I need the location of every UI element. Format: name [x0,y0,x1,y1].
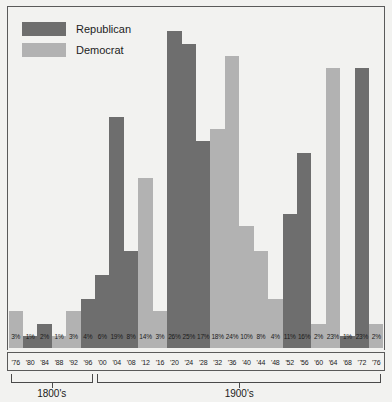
year-label: '52 [283,356,297,369]
year-label: '76 [9,356,23,369]
chart-legend: Republican Democrat [22,22,131,64]
bar-democrat-76 [369,324,383,348]
bar-republican-00 [95,275,109,348]
bar-democrat-60 [311,324,325,348]
bar-republican-52 [283,214,297,348]
legend-item-democrat: Democrat [22,43,131,57]
year-label: '08 [124,356,138,369]
bar-republican-04 [109,117,123,348]
bar-column [9,7,23,348]
bar-republican-80 [23,336,37,348]
year-label: '28 [196,356,210,369]
bar-democrat-16 [153,311,167,348]
year-label: '96 [81,356,95,369]
bar-column [355,7,369,348]
bar-column [297,7,311,348]
bar-column [283,7,297,348]
bar-republican-24 [182,44,196,348]
legend-swatch-republican [22,22,66,36]
bar-republican-28 [196,141,210,348]
bar-column [182,7,196,348]
year-label: '44 [254,356,268,369]
bar-republican-96 [81,299,95,348]
bar-democrat-44 [254,251,268,348]
legend-item-republican: Republican [22,22,131,36]
year-label: '24 [182,356,196,369]
year-label: '64 [326,356,340,369]
era-bracket-1800s [11,374,94,383]
bar-republican-20 [167,31,181,348]
bar-democrat-40 [239,226,253,348]
bar-democrat-64 [326,68,340,348]
bar-democrat-48 [268,299,282,348]
year-label: '60 [311,356,325,369]
legend-swatch-democrat [22,43,66,57]
bar-republican-72 [355,68,369,348]
year-label: '48 [268,356,282,369]
bar-column [153,7,167,348]
bar-column [138,7,152,348]
era-label: 1900's [97,388,381,399]
bar-democrat-36 [225,56,239,348]
bar-column [254,7,268,348]
bar-column [268,7,282,348]
bar-column [225,7,239,348]
year-label: '84 [37,356,51,369]
year-label: '36 [225,356,239,369]
bar-democrat-92 [66,311,80,348]
bar-column [196,7,210,348]
bar-democrat-12 [138,178,152,349]
bar-column [326,7,340,348]
bar-democrat-88 [52,336,66,348]
bar-republican-08 [124,251,138,348]
year-axis-labels: '76'80'84'88'92'96'00'04'08'12'16'20'24'… [9,356,384,369]
bar-column [210,7,224,348]
year-label: '56 [297,356,311,369]
year-label: '72 [355,356,369,369]
bar-democrat-76 [9,311,23,348]
bar-column [369,7,383,348]
year-label: '88 [52,356,66,369]
bar-republican-68 [340,336,354,348]
bar-column [311,7,325,348]
bar-column [340,7,354,348]
year-label: '32 [210,356,224,369]
year-label: '68 [340,356,354,369]
bar-republican-84 [37,324,51,348]
year-label: '92 [66,356,80,369]
era-bracket-1900s [97,374,381,383]
legend-label-democrat: Democrat [76,44,124,56]
bar-democrat-32 [210,129,224,348]
year-label: '16 [153,356,167,369]
era-label: 1800's [11,388,94,399]
legend-label-republican: Republican [76,23,131,35]
bar-column [239,7,253,348]
year-label: '76 [369,356,383,369]
bar-column [167,7,181,348]
year-label: '00 [95,356,109,369]
year-label: '80 [23,356,37,369]
year-label: '12 [138,356,152,369]
election-bar-chart: Republican Democrat 3%1%2%1%3%4%6%19%8%1… [0,0,392,402]
year-label: '04 [109,356,123,369]
year-label: '40 [239,356,253,369]
year-label: '20 [167,356,181,369]
bar-republican-56 [297,153,311,348]
